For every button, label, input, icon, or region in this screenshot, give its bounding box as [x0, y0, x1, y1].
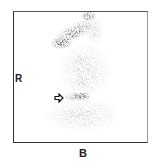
open-arrow-right-icon [54, 93, 64, 103]
scan-frame [13, 11, 148, 143]
scan-image [14, 12, 147, 142]
side-label: R [15, 74, 22, 84]
uptake-pattern [44, 12, 123, 133]
view-label: B [79, 148, 87, 158]
